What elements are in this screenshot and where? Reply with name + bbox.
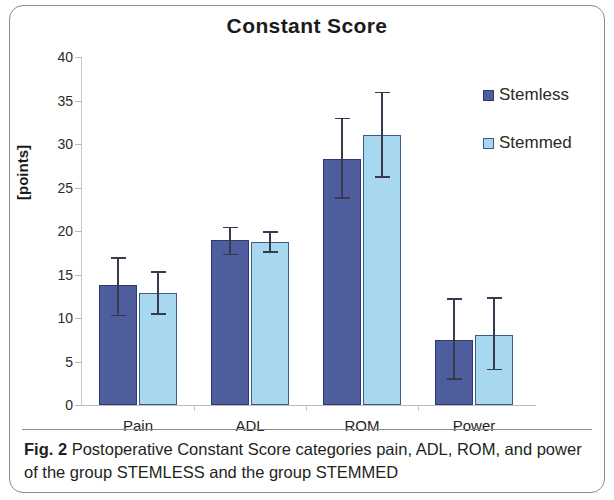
y-tick-mark [75, 57, 82, 58]
error-bar-cap-top [263, 231, 278, 233]
error-bar-stem [157, 271, 158, 315]
y-tick-label: 25 [57, 180, 73, 196]
error-bar-pain-stemmed [139, 271, 177, 315]
y-tick-label: 35 [57, 93, 73, 109]
error-bar-stem [453, 298, 454, 380]
error-bar-stem [117, 257, 118, 316]
error-bar-power-stemmed [475, 297, 513, 370]
error-bar-rom-stemmed [363, 92, 401, 178]
figure-caption: Fig. 2 Postoperative Constant Score cate… [24, 438, 592, 485]
error-bar-cap-top [151, 271, 166, 273]
error-bar-rom-stemless [323, 118, 361, 199]
error-bar-cap-bottom [111, 315, 126, 317]
error-bar-cap-bottom [375, 176, 390, 178]
y-axis-title: [points] [14, 145, 31, 200]
y-tick-mark [75, 231, 82, 232]
bar-adl-stemmed [251, 242, 289, 405]
chart-legend: StemlessStemmed [483, 85, 603, 181]
y-tick-label: 5 [65, 354, 73, 370]
x-axis-label: Power [453, 417, 496, 434]
error-bar-adl-stemless [211, 227, 249, 256]
legend-label: Stemless [499, 85, 569, 105]
error-bar-cap-bottom [263, 251, 278, 253]
legend-item-stemmed: Stemmed [483, 133, 603, 153]
category-separator [194, 405, 195, 411]
y-tick-mark [75, 188, 82, 189]
error-bar-cap-top [375, 92, 390, 94]
error-bar-cap-bottom [223, 254, 238, 256]
x-axis-label: Pain [123, 417, 153, 434]
y-tick-mark [75, 101, 82, 102]
error-bar-cap-top [223, 227, 238, 229]
legend-swatch-icon [483, 138, 494, 149]
category-separator [306, 405, 307, 411]
y-tick-mark [75, 405, 82, 406]
x-axis-label: ROM [345, 417, 380, 434]
error-bar-cap-bottom [151, 313, 166, 315]
y-tick-label: 15 [57, 267, 73, 283]
error-bar-cap-bottom [447, 378, 462, 380]
y-tick-mark [75, 144, 82, 145]
error-bar-cap-bottom [335, 197, 350, 199]
error-bar-stem [229, 227, 230, 256]
legend-label: Stemmed [499, 133, 572, 153]
error-bar-cap-top [335, 118, 350, 120]
y-tick-label: 10 [57, 310, 73, 326]
y-tick-mark [75, 362, 82, 363]
error-bar-power-stemless [435, 298, 473, 380]
error-bar-adl-stemmed [251, 231, 289, 253]
plot-area: 0510152025303540 PainADLROMPower [82, 57, 530, 405]
y-tick-mark [75, 318, 82, 319]
caption-text: Postoperative Constant Score categories … [24, 440, 582, 481]
y-tick-label: 20 [57, 223, 73, 239]
error-bar-stem [381, 92, 382, 178]
category-separator [418, 405, 419, 411]
y-tick-label: 0 [65, 397, 73, 413]
legend-item-stemless: Stemless [483, 85, 603, 105]
bar-adl-stemless [211, 240, 249, 405]
y-tick-label: 30 [57, 136, 73, 152]
error-bar-stem [341, 118, 342, 199]
x-axis-label: ADL [235, 417, 264, 434]
caption-divider [22, 429, 592, 430]
caption-label: Fig. 2 [24, 440, 67, 458]
chart-title: Constant Score [0, 14, 614, 38]
error-bar-pain-stemless [99, 257, 137, 316]
error-bar-cap-top [111, 257, 126, 259]
error-bar-cap-top [447, 298, 462, 300]
y-tick-mark [75, 275, 82, 276]
error-bar-stem [493, 297, 494, 370]
error-bar-cap-bottom [487, 369, 502, 371]
y-tick-label: 40 [57, 49, 73, 65]
error-bar-stem [269, 231, 270, 253]
error-bar-cap-top [487, 297, 502, 299]
legend-swatch-icon [483, 90, 494, 101]
chart-area: Constant Score [points] 0510152025303540… [0, 0, 614, 432]
